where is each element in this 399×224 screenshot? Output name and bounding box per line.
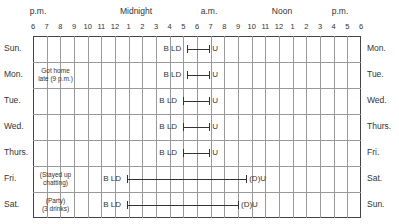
period-label: a.m. [201,6,218,16]
day-label-left: Mon. [4,69,23,79]
wake-up-label: U [212,148,218,157]
sleep-end-tick [209,149,210,157]
grid-hline [33,62,361,63]
hour-tick-label: 7 [209,22,213,31]
grid-vline [293,36,294,218]
grid-hline [33,88,361,89]
grid-vline [306,36,307,218]
grid-vline [156,36,157,218]
sleep-end-tick [209,71,210,79]
sleep-bar [183,101,209,102]
hour-tick-label: 7 [45,22,49,31]
sleep-end-tick [246,175,247,183]
grid-vline [265,36,266,218]
hour-tick-label: 5 [345,22,349,31]
grid-hline [33,140,361,141]
sleep-bar [127,205,238,206]
wake-up-label: (D)U [241,200,258,209]
grid-vline [238,36,239,218]
sleep-bar [187,49,209,50]
hour-tick-label: 4 [332,22,336,31]
wake-up-label: U [212,122,218,131]
hour-tick-label: 12 [111,22,119,31]
day-label-left: Wed. [4,121,24,131]
hour-tick-label: 2 [304,22,308,31]
hour-tick-label: 10 [247,22,255,31]
sleep-bar [127,179,246,180]
bed-lights-drowsy-label: B LD [159,122,177,131]
grid-vline [47,36,48,218]
bed-lights-drowsy-label: B LD [103,200,121,209]
annotation-line: Got home [38,67,73,75]
sleep-bar [187,75,209,76]
hour-tick-label: 2 [140,22,144,31]
grid-vline [60,36,61,218]
day-label-left: Sun. [4,43,22,53]
day-label-right: Sat. [367,173,382,183]
hour-tick-label: 11 [97,22,105,31]
hour-tick-label: 10 [83,22,91,31]
hour-tick-label: 5 [181,22,185,31]
annotation-line: late (9 p.m.) [38,75,73,83]
sleep-end-tick [209,97,210,105]
annotation-note: Got homelate (9 p.m.) [38,67,73,83]
hour-tick-label: 11 [261,22,269,31]
hour-tick-label: 6 [31,22,35,31]
sleep-end-tick [209,123,210,131]
grid-vline [101,36,102,218]
annotation-line: (3 drinks) [42,205,69,213]
period-label: p.m. [30,6,47,16]
grid-vline [252,36,253,218]
hour-tick-label: 8 [222,22,226,31]
day-label-left: Thurs. [4,147,28,157]
day-label-right: Sun. [367,199,385,209]
annotation-line: chatting) [40,179,71,187]
grid-vline [320,36,321,218]
day-label-left: Sat. [4,199,19,209]
annotation-line: (Party) [42,197,69,205]
hour-tick-label: 9 [236,22,240,31]
hour-tick-label: 12 [275,22,283,31]
bed-lights-drowsy-label: B LD [159,148,177,157]
day-label-right: Mon. [367,43,386,53]
grid-vline [129,36,130,218]
grid-hline [33,114,361,115]
sleep-bar [183,153,209,154]
day-label-right: Wed. [367,95,387,105]
annotation-note: (Stayed upchatting) [40,171,71,187]
sleep-end-tick [238,201,239,209]
sleep-end-tick [209,45,210,53]
grid-vline [115,36,116,218]
day-label-right: Fri. [367,147,379,157]
period-label: Noon [272,6,292,16]
annotation-line: (Stayed up [40,171,71,179]
grid-vline [74,36,75,218]
day-label-right: Tue. [367,69,384,79]
bed-lights-drowsy-label: B LD [163,70,181,79]
wake-up-label: U [212,44,218,53]
grid-vline [142,36,143,218]
day-label-left: Fri. [4,173,16,183]
bed-lights-drowsy-label: B LD [103,174,121,183]
wake-up-label: U [212,70,218,79]
wake-up-label: (D)U [249,174,266,183]
hour-tick-label: 8 [58,22,62,31]
hour-tick-label: 1 [127,22,131,31]
hour-tick-label: 9 [72,22,76,31]
grid-hline [33,166,361,167]
grid-vline [88,36,89,218]
bed-lights-drowsy-label: B LD [159,96,177,105]
day-label-right: Thurs. [367,121,391,131]
day-label-left: Tue. [4,95,21,105]
hour-tick-label: 4 [168,22,172,31]
period-label: p.m. [332,6,349,16]
grid-vline [347,36,348,218]
grid-vline [334,36,335,218]
hour-tick-label: 1 [291,22,295,31]
grid-hline [33,192,361,193]
annotation-note: (Party)(3 drinks) [42,197,69,213]
wake-up-label: U [212,96,218,105]
grid-vline [224,36,225,218]
hour-tick-label: 6 [359,22,363,31]
bed-lights-drowsy-label: B LD [163,44,181,53]
